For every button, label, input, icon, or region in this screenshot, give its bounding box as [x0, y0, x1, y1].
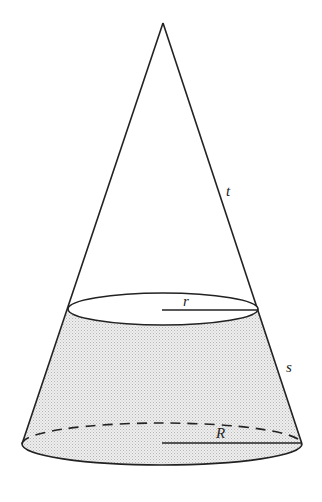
label-t: t [226, 183, 231, 199]
label-R: R [215, 425, 225, 441]
frustum-diagram: t r s R [0, 0, 322, 502]
label-s: s [286, 359, 292, 375]
frustum-shaded-region [22, 309, 302, 465]
top-circle [68, 293, 258, 325]
label-r: r [183, 293, 189, 309]
cone-figure: t r s R [0, 0, 322, 502]
